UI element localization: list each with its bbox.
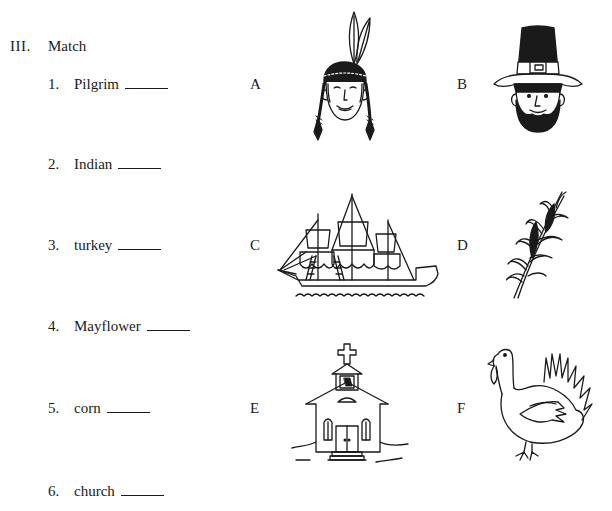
- section-number: III.: [10, 38, 31, 55]
- item-word: Pilgrim: [74, 76, 119, 93]
- item-number: 5.: [48, 400, 74, 417]
- answer-blank[interactable]: [107, 400, 150, 413]
- item-word: church: [74, 483, 115, 500]
- section-title: Match: [48, 38, 86, 55]
- answer-blank[interactable]: [118, 237, 161, 250]
- match-item-5: 5. corn: [48, 400, 150, 417]
- answer-blank[interactable]: [118, 156, 161, 169]
- picture-letter-b: B: [457, 76, 467, 93]
- match-item-1: 1. Pilgrim: [48, 76, 168, 93]
- pilgrim-head-with-hat-icon: [490, 22, 586, 134]
- item-word: corn: [74, 400, 101, 417]
- turkey-icon: [480, 344, 594, 462]
- church-icon: [290, 342, 410, 464]
- item-word: Mayflower: [74, 318, 141, 335]
- answer-blank[interactable]: [125, 76, 168, 89]
- item-word: turkey: [74, 237, 112, 254]
- item-number: 6.: [48, 483, 74, 500]
- sailing-ship-icon: [276, 190, 446, 302]
- native-american-head-with-feathers-icon: [310, 6, 380, 146]
- picture-letter-a: A: [250, 76, 261, 93]
- picture-letter-c: C: [250, 237, 260, 254]
- item-number: 3.: [48, 237, 74, 254]
- picture-letter-f: F: [457, 400, 465, 417]
- item-number: 4.: [48, 318, 74, 335]
- match-item-3: 3. turkey: [48, 237, 161, 254]
- answer-blank[interactable]: [121, 483, 164, 496]
- corn-stalk-icon: [506, 188, 570, 300]
- picture-letter-d: D: [457, 237, 468, 254]
- picture-letter-e: E: [250, 400, 259, 417]
- item-word: Indian: [74, 156, 112, 173]
- answer-blank[interactable]: [147, 318, 190, 331]
- match-item-2: 2. Indian: [48, 156, 161, 173]
- item-number: 2.: [48, 156, 74, 173]
- match-item-6: 6. church: [48, 483, 164, 500]
- item-number: 1.: [48, 76, 74, 93]
- match-item-4: 4. Mayflower: [48, 318, 190, 335]
